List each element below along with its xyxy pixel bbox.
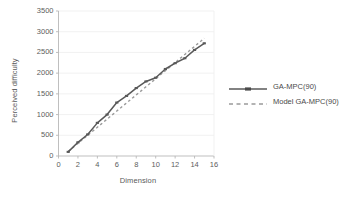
legend-label-measured: GA-MPC(90) [268, 82, 316, 91]
chart-figure: Perceived difficulty Dimension 050010001… [0, 0, 354, 198]
x-axis-title: Dimension [98, 176, 178, 185]
x-tick-label: 14 [187, 160, 203, 169]
tick-marks [56, 11, 214, 159]
y-tick-label: 3500 [26, 6, 54, 15]
gridlines [59, 11, 215, 135]
x-tick-label: 4 [89, 160, 105, 169]
x-tick-label: 2 [70, 160, 86, 169]
y-tick-label: 1500 [26, 89, 54, 98]
x-tick-label: 6 [109, 160, 125, 169]
y-tick-label: 500 [26, 130, 54, 139]
x-tick-label: 12 [167, 160, 183, 169]
x-tick-label: 0 [51, 160, 67, 169]
x-tick-label: 16 [206, 160, 222, 169]
legend-label-model: Model GA-MPC(90) [268, 97, 339, 106]
legend-item-model: Model GA-MPC(90) [228, 94, 352, 109]
y-axis-title: Perceived difficulty [10, 46, 19, 136]
legend-item-measured: GA-MPC(90) [228, 79, 352, 94]
legend-swatch-dashed-line-icon [228, 96, 268, 108]
y-tick-label: 1000 [26, 110, 54, 119]
y-tick-label: 2500 [26, 47, 54, 56]
x-tick-label: 10 [148, 160, 164, 169]
x-tick-label: 8 [128, 160, 144, 169]
y-tick-label: 2000 [26, 68, 54, 77]
chart-legend: GA-MPC(90) Model GA-MPC(90) [228, 79, 352, 109]
legend-swatch-solid-line-icon [228, 81, 268, 93]
axis-lines [59, 11, 215, 156]
y-tick-label: 3000 [26, 27, 54, 36]
y-tick-label: 0 [26, 151, 54, 160]
